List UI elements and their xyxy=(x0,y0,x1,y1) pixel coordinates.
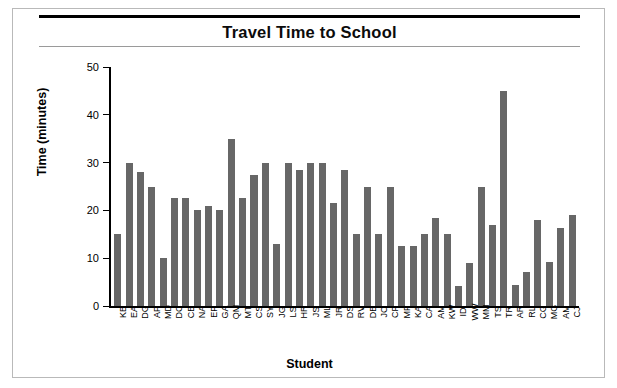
x-tick-slot: KB xyxy=(112,310,123,352)
bar xyxy=(205,206,212,306)
bar-slot xyxy=(385,67,396,306)
bar-slot xyxy=(316,67,327,306)
bar-slot xyxy=(237,67,248,306)
bar-slot xyxy=(430,67,441,306)
x-tick-slot: WW xyxy=(464,310,475,352)
x-tick-slot: DB xyxy=(362,310,373,352)
bar-series xyxy=(112,67,578,306)
y-tick-0: 0 xyxy=(59,300,109,312)
x-tick-slot: MT xyxy=(237,310,248,352)
bar-slot xyxy=(396,67,407,306)
bar xyxy=(114,234,121,306)
bar xyxy=(444,234,451,306)
bar xyxy=(512,285,519,307)
x-tick-slot: CF xyxy=(385,310,396,352)
bar xyxy=(250,175,257,306)
y-tick-30: 30 xyxy=(59,157,109,169)
x-tick-slot: CB xyxy=(180,310,191,352)
bar-slot xyxy=(271,67,282,306)
bar-slot xyxy=(328,67,339,306)
x-tick-slot: KW xyxy=(441,310,452,352)
bar-slot xyxy=(464,67,475,306)
page-title: Travel Time to School xyxy=(222,23,396,42)
y-tick-20: 20 xyxy=(59,204,109,216)
bar xyxy=(466,263,473,306)
x-tick-slot: DS xyxy=(339,310,350,352)
bar-slot xyxy=(123,67,134,306)
bar-slot xyxy=(248,67,259,306)
bar xyxy=(285,163,292,306)
x-tick-slot: AM xyxy=(430,310,441,352)
x-tick-slot: KA xyxy=(407,310,418,352)
x-tick-slot: MM xyxy=(476,310,487,352)
x-tick-slot: JR xyxy=(328,310,339,352)
bar xyxy=(421,234,428,306)
bar xyxy=(160,258,167,306)
bar xyxy=(387,187,394,307)
bar xyxy=(341,170,348,306)
bar-slot xyxy=(407,67,418,306)
bar-slot xyxy=(260,67,271,306)
y-tick-label: 0 xyxy=(93,300,99,312)
bar-slot xyxy=(373,67,384,306)
bar-slot xyxy=(214,67,225,306)
x-tick-slot: TR xyxy=(498,310,509,352)
bar xyxy=(296,170,303,306)
bar-slot xyxy=(498,67,509,306)
x-tick-slot: CG xyxy=(532,310,543,352)
bar-slot xyxy=(521,67,532,306)
y-tick-40: 40 xyxy=(59,109,109,121)
bar-slot xyxy=(419,67,430,306)
y-tick-10: 10 xyxy=(59,252,109,264)
x-tick-slot: EA xyxy=(123,310,134,352)
x-tick-slot: MD xyxy=(157,310,168,352)
x-tick-slot: AM xyxy=(555,310,566,352)
bar xyxy=(569,215,576,306)
x-tick-slot: NA xyxy=(192,310,203,352)
bar xyxy=(557,228,564,306)
bar xyxy=(216,210,223,306)
x-tick-slot: RL xyxy=(521,310,532,352)
x-axis-label: Student xyxy=(13,357,606,371)
x-tick-label: CJ xyxy=(572,306,582,317)
x-tick-slot: CJ xyxy=(566,310,577,352)
x-tick-slot: DC xyxy=(169,310,180,352)
bar xyxy=(273,244,280,306)
y-axis-line xyxy=(109,67,111,307)
bar-slot xyxy=(555,67,566,306)
bar xyxy=(171,198,178,306)
bar xyxy=(182,198,189,306)
chart-figure: Travel Time to School Time (minutes) 010… xyxy=(12,8,605,378)
bar-slot xyxy=(510,67,521,306)
bar-slot xyxy=(441,67,452,306)
y-tick-50: 50 xyxy=(59,61,109,73)
x-tick-slot: QM xyxy=(226,310,237,352)
y-tick-label: 50 xyxy=(87,61,99,73)
bar xyxy=(489,225,496,306)
bar-slot xyxy=(305,67,316,306)
x-tick-slot: EF xyxy=(203,310,214,352)
x-tick-slot: ID xyxy=(453,310,464,352)
bar xyxy=(239,198,246,306)
bar-slot xyxy=(146,67,157,306)
y-tick-label: 20 xyxy=(87,204,99,216)
x-tick-slot: GA xyxy=(214,310,225,352)
x-tick-slot: JS xyxy=(305,310,316,352)
x-tick-slot: HR xyxy=(294,310,305,352)
bar-slot xyxy=(544,67,555,306)
bar-slot xyxy=(180,67,191,306)
bar xyxy=(410,246,417,306)
y-axis-label: Time (minutes) xyxy=(35,57,49,207)
bar-slot xyxy=(532,67,543,306)
bar-slot xyxy=(566,67,577,306)
bar xyxy=(262,163,269,306)
bar-slot xyxy=(476,67,487,306)
bar xyxy=(307,163,314,306)
bar xyxy=(330,203,337,306)
x-tick-slot: AR xyxy=(510,310,521,352)
bar-slot xyxy=(351,67,362,306)
bar-slot xyxy=(112,67,123,306)
bar-slot xyxy=(226,67,237,306)
x-tick-slot: DG xyxy=(135,310,146,352)
x-tick-slot: AP xyxy=(146,310,157,352)
